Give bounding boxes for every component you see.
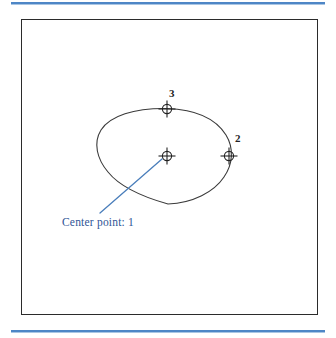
marker-label-point-3: 3 bbox=[169, 88, 175, 99]
marker-label-point-2: 2 bbox=[235, 133, 241, 144]
bottom-rule-shadow bbox=[11, 332, 325, 333]
figure-frame bbox=[21, 19, 318, 315]
top-rule-shadow bbox=[11, 4, 325, 5]
figure-page: 3 2 Center point: 1 bbox=[0, 0, 336, 338]
center-point-annotation-label: Center point: 1 bbox=[62, 216, 134, 228]
